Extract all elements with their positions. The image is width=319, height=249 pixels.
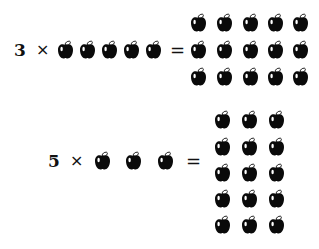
apple-icon <box>216 13 233 32</box>
multiplier-3: 3 <box>14 42 26 59</box>
apple-icon <box>292 67 309 86</box>
apple-icon <box>267 13 284 32</box>
apple-icon <box>242 40 259 59</box>
apple-icon <box>292 40 309 59</box>
apple-icon <box>241 163 258 182</box>
apple-icon <box>214 137 231 156</box>
apple-icon <box>241 215 258 234</box>
apple-icon <box>101 40 118 59</box>
apple-icon <box>145 40 162 59</box>
apple-icon <box>292 13 309 32</box>
apple-icon <box>268 189 285 208</box>
apple-icon <box>94 151 111 170</box>
apple-icon <box>216 67 233 86</box>
apple-icon <box>214 110 231 129</box>
apple-icon <box>214 189 231 208</box>
apple-icon <box>267 40 284 59</box>
apple-icon <box>190 67 207 86</box>
apple-icon <box>268 110 285 129</box>
apple-icon <box>190 13 207 32</box>
apple-icon <box>216 40 233 59</box>
apple-icon <box>214 163 231 182</box>
apple-icon <box>157 151 174 170</box>
apple-icon <box>123 40 140 59</box>
apple-icon <box>214 215 231 234</box>
equals-sign: = <box>170 41 185 59</box>
apple-icon <box>268 163 285 182</box>
apple-icon <box>79 40 96 59</box>
apple-icon <box>242 67 259 86</box>
apple-icon <box>267 67 284 86</box>
apple-icon <box>241 137 258 156</box>
apple-icon <box>268 137 285 156</box>
equals-sign: = <box>186 152 201 170</box>
times-sign: × <box>70 153 83 169</box>
apple-icon <box>125 151 142 170</box>
multiplier-5: 5 <box>48 153 60 170</box>
apple-icon <box>242 13 259 32</box>
apple-icon <box>268 215 285 234</box>
times-sign: × <box>36 42 49 58</box>
apple-icon <box>57 40 74 59</box>
apple-icon <box>241 189 258 208</box>
apple-icon <box>190 40 207 59</box>
apple-icon <box>241 110 258 129</box>
